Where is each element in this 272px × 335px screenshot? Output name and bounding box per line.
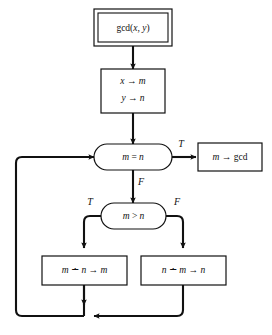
branch-label-equality-true: T — [178, 138, 185, 149]
node-equality-test-label: m = n — [122, 152, 144, 162]
flowchart-canvas: gcd(x, y) x → m y → n m = n m → gcd m > … — [0, 0, 272, 335]
node-output: m → gcd — [198, 143, 262, 171]
node-start: gcd(x, y) — [94, 9, 172, 46]
node-init-line1: x → m — [119, 76, 145, 86]
node-subtract-right-label: n ∸ m → n — [162, 265, 206, 275]
node-start-label: gcd(x, y) — [116, 23, 149, 34]
branch-label-greater-false: F — [173, 196, 181, 207]
node-greater-test-label: m > n — [123, 211, 145, 221]
node-greater-test: m > n — [101, 203, 166, 229]
node-equality-test: m = n — [94, 144, 172, 170]
node-init-line2: y → n — [120, 93, 144, 103]
node-subtract-left-label: m ∸ n → m — [62, 265, 108, 275]
flowchart-diagram: gcd(x, y) x → m y → n m = n m → gcd m > … — [0, 0, 272, 335]
branch-label-greater-true: T — [87, 196, 94, 207]
edge-subtract-right-to-join — [94, 285, 183, 316]
node-init: x → m y → n — [101, 69, 165, 113]
edge-greater-true-to-subtract-left — [84, 216, 101, 248]
edge-loop-back-to-equality — [16, 157, 94, 316]
branch-label-equality-false: F — [137, 176, 145, 187]
node-subtract-left: m ∸ n → m — [42, 256, 127, 285]
node-subtract-right: n ∸ m → n — [141, 256, 226, 285]
edge-greater-false-to-subtract-right — [166, 216, 183, 248]
node-output-label: m → gcd — [213, 152, 248, 162]
